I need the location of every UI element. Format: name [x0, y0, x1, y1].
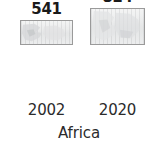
category-label-2002: 2002 — [20, 99, 73, 121]
bar-group-2002: 541 — [20, 20, 73, 45]
bar-2002 — [20, 20, 73, 45]
bar-value-label: 541 — [20, 2, 73, 20]
map-texture-icon — [91, 9, 144, 44]
map-texture-icon — [21, 21, 72, 44]
bar-group-2020: 824 — [90, 8, 145, 45]
plot-area: 541 824 — [0, 0, 158, 100]
category-label-2020: 2020 — [90, 99, 145, 121]
bar-chart: 541 824 — [0, 0, 158, 152]
chart-group-title: Africa — [0, 122, 158, 144]
bar-2020 — [90, 8, 145, 45]
bar-value-label: 824 — [90, 0, 145, 8]
category-axis: 2002 2020 — [0, 99, 158, 123]
